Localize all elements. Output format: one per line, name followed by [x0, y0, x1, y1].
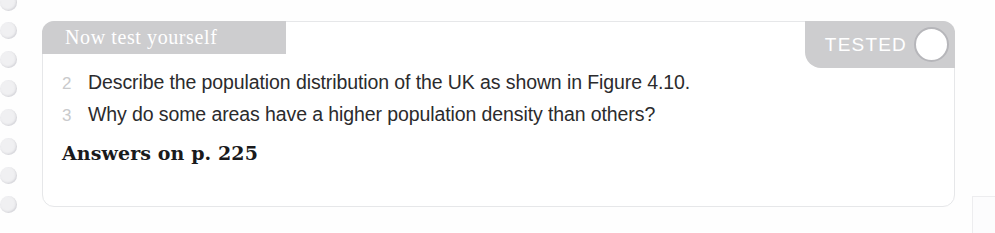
- spiral-binding-hole-icon: [0, 22, 17, 39]
- question-number: 3: [60, 106, 88, 126]
- spiral-binding-hole-icon: [0, 167, 17, 184]
- scan-edge-artifact: [972, 196, 995, 233]
- list-item: 2 Describe the population distribution o…: [60, 71, 934, 103]
- tested-badge[interactable]: TESTED: [805, 21, 955, 68]
- now-test-yourself-card: Now test yourself TESTED 2 Describe the …: [42, 21, 955, 207]
- spiral-binding-hole-icon: [0, 51, 17, 68]
- question-list: 2 Describe the population distribution o…: [60, 71, 934, 135]
- question-number: 2: [60, 74, 88, 94]
- question-text: Describe the population distribution of …: [88, 71, 690, 94]
- spiral-binding-hole-icon: [0, 80, 17, 97]
- spiral-binding-hole-icon: [0, 109, 17, 126]
- circle-checkbox-icon[interactable]: [914, 27, 949, 62]
- spiral-binding-strip: [0, 0, 26, 232]
- question-text: Why do some areas have a higher populati…: [88, 103, 655, 126]
- spiral-binding-hole-icon: [0, 0, 17, 11]
- answers-reference: Answers on p. 225: [62, 142, 258, 164]
- spiral-binding-hole-icon: [0, 196, 17, 213]
- card-title: Now test yourself: [65, 26, 217, 49]
- list-item: 3 Why do some areas have a higher popula…: [60, 103, 934, 135]
- tested-badge-label: TESTED: [825, 34, 907, 56]
- spiral-binding-hole-icon: [0, 138, 17, 155]
